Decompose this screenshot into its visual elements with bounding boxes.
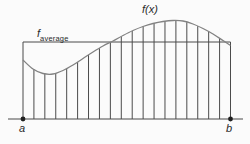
- function-label: f(x): [142, 4, 158, 15]
- endpoint-b-label: b: [226, 123, 232, 134]
- endpoint-a-label: a: [19, 123, 25, 134]
- average-value-diagram: f(x) faverage a b: [0, 0, 250, 144]
- f-average-label: faverage: [37, 28, 69, 39]
- diagram-svg: [0, 0, 250, 144]
- endpoint-b-dot: [228, 117, 233, 122]
- endpoint-a-dot: [21, 117, 26, 122]
- f-average-subscript: average: [40, 34, 69, 43]
